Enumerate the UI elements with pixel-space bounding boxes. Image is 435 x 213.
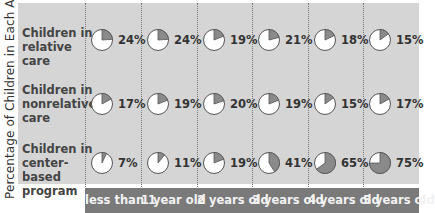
- pie-icon: [257, 28, 281, 52]
- percent-value: 65%: [341, 156, 369, 170]
- data-cell: 21%: [257, 25, 313, 55]
- percent-value: 11%: [174, 156, 202, 170]
- column-header: 4 years old: [308, 188, 364, 213]
- data-cell: 65%: [313, 148, 369, 178]
- data-cell: 15%: [368, 25, 424, 55]
- pie-icon: [202, 28, 226, 52]
- column-header: 5 years old: [363, 188, 419, 213]
- percent-value: 19%: [285, 97, 313, 111]
- percent-value: 19%: [230, 156, 258, 170]
- pie-icon: [90, 151, 114, 175]
- row-label-line: relative care: [22, 40, 100, 68]
- pie-icon: [368, 92, 392, 116]
- pie-icon: [257, 92, 281, 116]
- pie-icon: [313, 92, 337, 116]
- data-cell: 19%: [146, 89, 202, 119]
- pie-icon: [313, 28, 337, 52]
- pie-icon: [90, 92, 114, 116]
- data-cell: 19%: [202, 148, 258, 178]
- row-label: Children innonrelativecare: [22, 83, 100, 125]
- data-cell: 20%: [202, 89, 258, 119]
- data-cell: 19%: [202, 25, 258, 55]
- percent-value: 19%: [174, 97, 202, 111]
- percent-value: 75%: [396, 156, 424, 170]
- data-cell: 19%: [257, 89, 313, 119]
- percent-value: 17%: [396, 97, 424, 111]
- percent-value: 7%: [118, 156, 138, 170]
- percent-value: 18%: [341, 33, 369, 47]
- column-header: less than 1: [85, 188, 141, 213]
- data-cell: 17%: [368, 89, 424, 119]
- data-cell: 11%: [146, 148, 202, 178]
- row-label: Children inrelative care: [22, 26, 100, 68]
- data-cell: 75%: [368, 148, 424, 178]
- pie-icon: [146, 92, 170, 116]
- row-label-line: Children in: [22, 142, 100, 156]
- data-cell: 18%: [313, 25, 369, 55]
- percent-value: 15%: [341, 97, 369, 111]
- pie-icon: [257, 151, 281, 175]
- row-label-line: nonrelative: [22, 97, 100, 111]
- y-axis-label: Percentage of Children in Each Age Group…: [3, 9, 19, 199]
- percent-value: 17%: [118, 97, 146, 111]
- pie-icon: [146, 151, 170, 175]
- data-cell: 24%: [90, 25, 146, 55]
- column-header: 1 year old: [141, 188, 197, 213]
- data-cell: 41%: [257, 148, 313, 178]
- column-header: 3 years old: [252, 188, 308, 213]
- row-label-line: Children in: [22, 26, 100, 40]
- percent-value: 21%: [285, 33, 313, 47]
- column-header: 2 years old: [197, 188, 253, 213]
- data-cell: 7%: [90, 148, 138, 178]
- column-divider: [85, 3, 86, 213]
- data-cell: 24%: [146, 25, 202, 55]
- pie-icon: [202, 151, 226, 175]
- pie-icon: [313, 151, 337, 175]
- pie-icon: [90, 28, 114, 52]
- row-label-line: care: [22, 111, 100, 125]
- row-label-line: Children in: [22, 83, 100, 97]
- percent-value: 20%: [230, 97, 258, 111]
- percent-value: 24%: [174, 33, 202, 47]
- percent-value: 15%: [396, 33, 424, 47]
- data-cell: 15%: [313, 89, 369, 119]
- percent-value: 19%: [230, 33, 258, 47]
- percent-value: 41%: [285, 156, 313, 170]
- pie-icon: [146, 28, 170, 52]
- pie-icon: [368, 151, 392, 175]
- pie-icon: [202, 92, 226, 116]
- row-label-line: center-based: [22, 156, 100, 184]
- percent-value: 24%: [118, 33, 146, 47]
- data-cell: 17%: [90, 89, 146, 119]
- pie-icon: [368, 28, 392, 52]
